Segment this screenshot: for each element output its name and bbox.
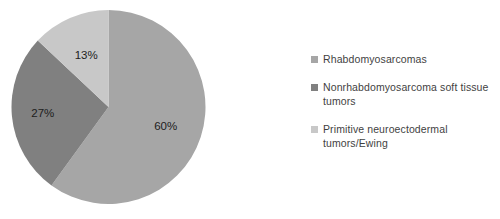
legend-item-rhabdomyosarcomas[interactable]: Rhabdomyosarcomas [311, 52, 497, 66]
legend-item-label: Rhabdomyosarcomas [323, 52, 427, 66]
pie-chart-plot-area: 60% 27% 13% [11, 9, 207, 206]
legend-item-label: Primitive neuroectodermal tumors/Ewing [323, 122, 497, 150]
pie-slice-label-60: 60% [154, 120, 177, 132]
pie-slice-label-27: 27% [31, 107, 54, 119]
legend-swatch-icon [311, 56, 318, 63]
legend-swatch-icon [311, 84, 318, 91]
legend-item-label: Nonrhabdomyosarcoma soft tissue tumors [323, 80, 497, 108]
legend-item-primitive-neuroectodermal-tumors-ewing[interactable]: Primitive neuroectodermal tumors/Ewing [311, 122, 497, 150]
legend-swatch-icon [311, 126, 318, 133]
pie-chart-svg: 60% 27% 13% [11, 9, 207, 206]
chart-legend: Rhabdomyosarcomas Nonrhabdomyosarcoma so… [311, 52, 497, 164]
pie-chart-figure: 60% 27% 13% Rhabdomyosarcomas Nonrhabdom… [0, 0, 500, 219]
pie-slice-label-13: 13% [75, 49, 98, 61]
legend-item-nonrhabdomyosarcoma-soft-tissue-tumors[interactable]: Nonrhabdomyosarcoma soft tissue tumors [311, 80, 497, 108]
